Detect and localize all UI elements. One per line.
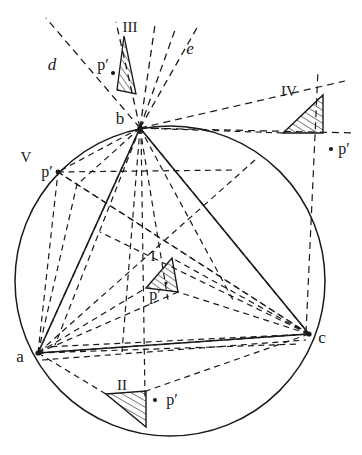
p-prime-label-IV: p′ xyxy=(338,140,350,158)
pV-to-right-arc xyxy=(58,170,232,172)
cevian-a-to-pV xyxy=(38,172,58,353)
cevian-a-to-II xyxy=(38,353,106,394)
ray-label-e: e xyxy=(186,39,194,58)
pV-to-c-chord xyxy=(58,172,309,334)
cevian-c-to-II xyxy=(146,334,309,391)
geometry-figure: a b c d e I II III IV V p′ p′ p′ p′ p′ xyxy=(0,0,362,455)
vertex-label-b: b xyxy=(116,109,125,128)
region-II-hatched-shape xyxy=(106,391,146,427)
p-prime-label-III: p′ xyxy=(97,56,109,74)
p-prime-label-V: p′ xyxy=(41,163,53,181)
region-III-hatched-shape xyxy=(117,36,136,94)
vertex-dot-c xyxy=(306,331,311,336)
region-I-point-marker xyxy=(164,281,167,284)
cevian-c-to-I-upper xyxy=(172,258,309,334)
region-label-V: V xyxy=(21,149,32,165)
p-prime-dot-IV xyxy=(329,147,333,151)
region-III-triangle xyxy=(117,36,136,94)
vertex-label-a: a xyxy=(16,347,24,366)
region-label-II: II xyxy=(117,377,127,393)
vertex-dot-b xyxy=(137,125,142,130)
chord-upper-right-to-a xyxy=(38,160,255,353)
p-prime-dot-II xyxy=(153,398,157,402)
vertex-dot-p-prime-V xyxy=(56,170,61,175)
p-prime-label-II: p′ xyxy=(166,391,178,409)
vertex-markers xyxy=(35,125,311,355)
vertex-label-c: c xyxy=(318,328,326,347)
p-prime-label-I: p′ xyxy=(149,286,161,304)
region-III-right-edge xyxy=(140,25,155,128)
cevian-c-up-left xyxy=(100,232,309,334)
cevian-a-up-1 xyxy=(38,180,78,353)
cevian-b-vertical xyxy=(141,128,145,398)
vertex-dot-a xyxy=(35,350,40,355)
cevian-b-down-1 xyxy=(55,128,140,345)
region-IV-triangle xyxy=(283,95,323,133)
ray-label-d: d xyxy=(48,55,57,74)
region-label-IV: IV xyxy=(281,83,297,99)
p-prime-dot-III xyxy=(111,71,115,75)
region-label-I: I xyxy=(151,248,156,264)
region-label-III: III xyxy=(123,19,138,35)
region-IV-hatched-shape xyxy=(283,95,323,133)
ray-b-upper-right xyxy=(140,30,175,128)
region-II-triangle xyxy=(106,391,146,427)
